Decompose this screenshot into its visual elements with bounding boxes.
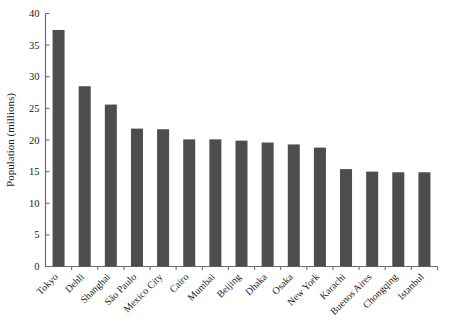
x-axis-category-label: Beijing <box>214 271 243 300</box>
y-axis-tick-label: 30 <box>29 71 40 82</box>
bar <box>79 86 91 266</box>
bar-chart: 0510152025303540Population (millions)Tok… <box>0 0 450 334</box>
bar <box>340 169 352 266</box>
bar <box>262 143 274 267</box>
x-axis-category-label: Cairo <box>167 271 190 294</box>
x-axis-category-label: Tokyo <box>34 271 60 297</box>
x-axis-category-label: Mumbai <box>185 271 217 303</box>
bar <box>105 105 117 267</box>
x-axis-category-label: Dehli <box>63 271 87 295</box>
bar <box>392 172 404 266</box>
bar <box>418 172 430 266</box>
bar <box>131 129 143 267</box>
y-axis-tick-label: 20 <box>29 135 40 146</box>
bar <box>236 141 248 267</box>
y-axis-tick-label: 40 <box>29 8 40 19</box>
y-axis-tick-label: 0 <box>34 261 39 272</box>
x-axis-category-label: Istanbul <box>395 271 426 302</box>
y-axis-tick-label: 15 <box>29 166 40 177</box>
y-axis-tick-label: 25 <box>29 103 40 114</box>
bar <box>288 144 300 266</box>
y-axis-tick-label: 5 <box>34 229 39 240</box>
bar <box>209 139 221 266</box>
bar <box>53 30 65 267</box>
x-axis-category-label: Dhaka <box>243 271 270 298</box>
bar <box>183 139 195 266</box>
y-axis-tick-label: 10 <box>29 198 40 209</box>
chart-canvas: 0510152025303540Population (millions)Tok… <box>0 0 450 334</box>
y-axis-title: Population (millions) <box>4 93 17 187</box>
bar <box>366 172 378 267</box>
bar <box>314 148 326 267</box>
bar <box>157 129 169 266</box>
y-axis-tick-label: 35 <box>29 40 40 51</box>
